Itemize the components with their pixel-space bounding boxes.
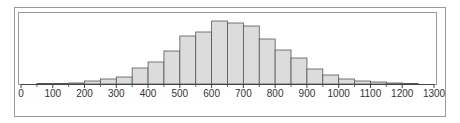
histogram-bar (228, 23, 244, 84)
histogram-bar (339, 79, 355, 84)
histogram-bar (132, 68, 148, 84)
histogram-bar (37, 84, 53, 85)
histogram-bar (69, 83, 85, 84)
histogram-bar (307, 69, 323, 84)
histogram-bar (386, 83, 402, 84)
x-tick-label: 600 (203, 88, 220, 99)
histogram-bar (355, 81, 371, 84)
x-tick-label: 500 (172, 88, 189, 99)
x-tick-label: 1200 (391, 88, 414, 99)
histogram-bar (148, 62, 164, 84)
x-tick-label: 800 (267, 88, 284, 99)
histogram-bar (116, 77, 132, 84)
x-tick-label: 400 (140, 88, 157, 99)
histogram-bar (323, 75, 339, 84)
x-tick-label: 1300 (423, 88, 446, 99)
x-tick-label: 300 (108, 88, 125, 99)
histogram-bar (259, 39, 275, 84)
x-tick-label: 1100 (360, 88, 382, 99)
x-tick-label: 700 (235, 88, 252, 99)
x-tick-label: 1000 (328, 88, 351, 99)
histogram-bar (402, 84, 418, 85)
histogram-bar (291, 58, 307, 84)
x-tick-label: 100 (44, 88, 61, 99)
histogram-bar (196, 32, 212, 84)
x-tick-label: 0 (18, 88, 24, 99)
histogram-bar (85, 81, 101, 84)
histogram-chart: 0100200300400500600700800900100011001200… (0, 0, 460, 123)
x-tick-label: 900 (299, 88, 316, 99)
histogram-bar (164, 51, 180, 84)
histogram-bar (275, 50, 291, 84)
histogram-bar (53, 84, 69, 85)
histogram-bar (180, 36, 196, 84)
histogram-bar (212, 21, 228, 84)
histogram-bar (370, 82, 386, 84)
histogram-bar (100, 79, 116, 84)
x-tick-label: 200 (76, 88, 93, 99)
histogram-bar (243, 26, 259, 84)
